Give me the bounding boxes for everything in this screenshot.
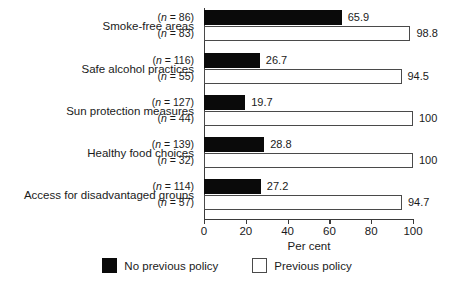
- bar-row: 94.7: [204, 195, 413, 210]
- chart-legend: No previous policyPrevious policy: [0, 258, 454, 273]
- x-tick: [204, 220, 205, 224]
- bar-value-label: 94.5: [408, 69, 429, 84]
- category-label: Access for disadvantaged groups: [24, 189, 194, 202]
- bar-previous-policy: [204, 69, 402, 84]
- bar-value-label: 100: [419, 153, 437, 168]
- x-tick: [246, 220, 247, 224]
- bar-value-label: 100: [419, 111, 437, 126]
- x-tick-label: 60: [309, 225, 349, 237]
- category-label: Sun protection measures: [66, 105, 194, 118]
- x-tick: [371, 220, 372, 224]
- bar-value-label: 28.8: [270, 137, 291, 152]
- legend-swatch-light: [252, 258, 267, 273]
- category-label: Safe alcohol practices: [81, 63, 194, 76]
- x-axis-title: Per cent: [204, 240, 414, 252]
- category-label: Healthy food choices: [87, 147, 194, 160]
- bar-row: 94.5: [204, 69, 413, 84]
- bar-row: 98.8: [204, 26, 413, 41]
- bar-value-label: 26.7: [266, 53, 287, 68]
- bar-no-previous-policy: [204, 53, 260, 68]
- x-tick: [329, 220, 330, 224]
- bar-chart: (n = 86)(n = 83)Smoke-free areas(n = 116…: [0, 0, 454, 285]
- bar-row: 27.2: [204, 179, 413, 194]
- bar-no-previous-policy: [204, 95, 245, 110]
- bar-value-label: 94.7: [408, 195, 429, 210]
- bar-previous-policy: [204, 26, 410, 41]
- bar-row: 28.8: [204, 137, 413, 152]
- legend-item: Previous policy: [252, 258, 351, 273]
- bar-row: 65.9: [204, 10, 413, 25]
- x-tick: [413, 220, 414, 224]
- x-tick-label: 100: [393, 225, 433, 237]
- bar-previous-policy: [204, 111, 413, 126]
- legend-label: Previous policy: [274, 260, 351, 272]
- x-axis-line: [204, 219, 414, 220]
- bar-row: 100: [204, 153, 413, 168]
- plot-area: 65.998.826.794.519.710028.810027.294.7: [204, 8, 413, 219]
- category-label: Smoke-free areas: [103, 20, 194, 33]
- legend-swatch-dark: [102, 258, 117, 273]
- legend-item: No previous policy: [102, 258, 218, 273]
- bar-previous-policy: [204, 195, 402, 210]
- bar-value-label: 98.8: [416, 26, 437, 41]
- bar-row: 19.7: [204, 95, 413, 110]
- bar-no-previous-policy: [204, 137, 264, 152]
- bar-row: 100: [204, 111, 413, 126]
- x-tick-label: 20: [226, 225, 266, 237]
- x-tick: [288, 220, 289, 224]
- bar-value-label: 65.9: [348, 10, 369, 25]
- legend-label: No previous policy: [124, 260, 218, 272]
- x-tick-label: 0: [184, 225, 224, 237]
- bar-previous-policy: [204, 153, 413, 168]
- x-tick-label: 40: [268, 225, 308, 237]
- category-labels: (n = 86)(n = 83)Smoke-free areas(n = 116…: [0, 8, 199, 219]
- bar-value-label: 19.7: [251, 95, 272, 110]
- bar-value-label: 27.2: [267, 179, 288, 194]
- bar-no-previous-policy: [204, 179, 261, 194]
- x-tick-label: 80: [351, 225, 391, 237]
- bar-row: 26.7: [204, 53, 413, 68]
- bar-no-previous-policy: [204, 10, 342, 25]
